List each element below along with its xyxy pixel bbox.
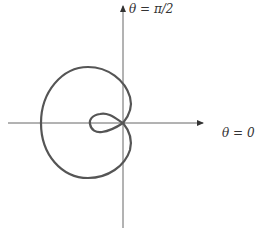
label-theta-zero: θ = 0	[222, 126, 255, 140]
label-theta-pi-over-2: θ = π/2	[129, 2, 173, 16]
polar-plot	[0, 0, 262, 245]
